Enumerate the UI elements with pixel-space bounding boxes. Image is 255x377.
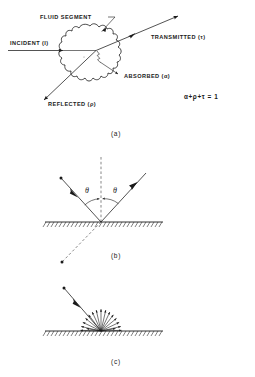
refracted-ray-end-dot-b [61,261,64,264]
fluid-segment-blob [59,24,121,81]
caption-panel-c: (c) [111,358,121,366]
energy-balance-equation: α+ρ+τ = 1 [184,93,218,101]
panel-a: FLUID SEGMENT INCIDENT (I) TRANSMITTED (… [8,14,218,138]
transmitted-midpoint-arrowhead [128,33,136,39]
diffuse-reflection-fan-c [81,309,122,331]
incident-ray-b [61,178,101,222]
angle-arc-incidence-b [85,199,100,205]
caption-panel-b: (b) [111,252,121,260]
incident-ray-arrowhead-c [73,299,81,309]
incident-ray-origin-dot-c [63,287,66,290]
label-incident: INCIDENT (I) [10,40,49,46]
label-transmitted: TRANSMITTED (τ) [151,34,206,40]
physics-diagram: FLUID SEGMENT INCIDENT (I) TRANSMITTED (… [0,0,255,377]
label-reflected: REFLECTED (ρ) [48,101,96,107]
angle-arc-reflection-b [103,199,119,204]
refracted-ray-b [62,222,101,262]
incident-ray-arrowhead-b [70,189,78,198]
angle-label-reflection-b: θ [113,186,117,195]
reflected-ray-arrowhead-b [129,182,138,190]
surface-hatching-c [43,331,162,336]
label-absorbed: ABSORBED (α) [124,73,170,79]
incident-ray-c [64,288,101,331]
reflected-ray [44,51,96,101]
surface-hatching-b [43,222,162,227]
panel-b: θ θ (b) [43,157,163,264]
incident-ray-origin-dot-b [60,177,63,180]
label-fluid-segment: FLUID SEGMENT [40,14,92,20]
caption-panel-a: (a) [111,130,121,138]
reflected-ray-b [101,173,146,222]
blob-interior-speck [84,57,85,58]
absorbed-squiggle [97,51,100,63]
panel-c: (c) [43,287,163,367]
fluid-segment-leader-head [101,28,106,32]
angle-label-incidence-b: θ [85,186,89,195]
